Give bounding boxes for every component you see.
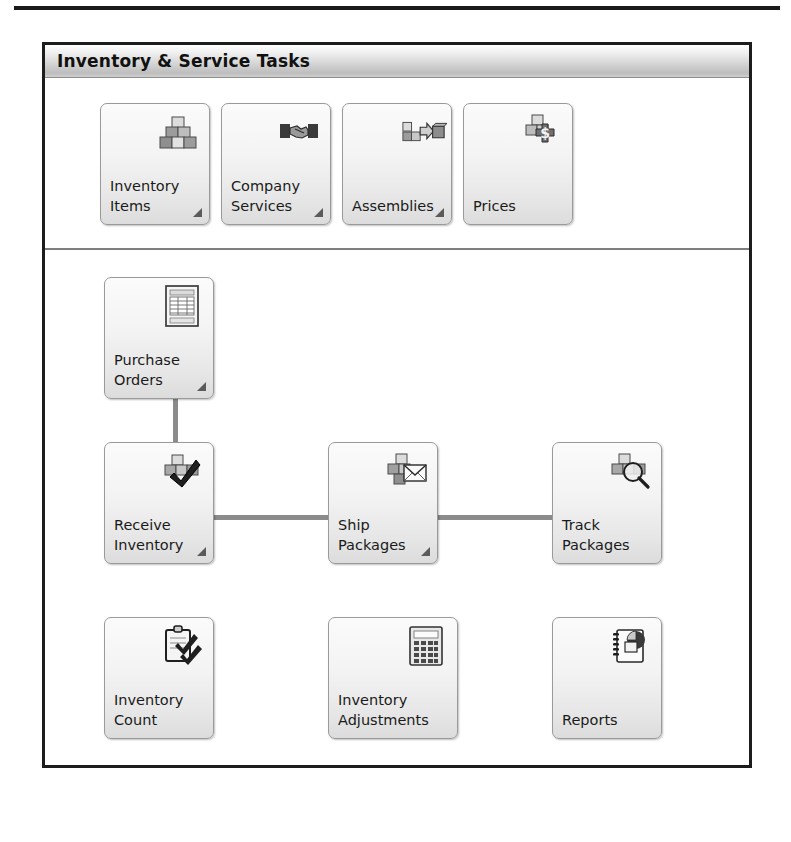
purchase-order-document-icon [159, 285, 205, 327]
page-top-rule [14, 6, 780, 10]
task-button-label: InventoryCount [114, 690, 207, 731]
task-button-label: Assemblies [352, 196, 445, 217]
dropdown-caret-icon[interactable] [197, 547, 206, 556]
task-button-label: Reports [562, 710, 655, 731]
task-button-label: ShipPackages [338, 515, 431, 556]
panel-title: Inventory & Service Tasks [57, 51, 310, 71]
handshake-icon [276, 111, 322, 153]
task-button-receive-inventory[interactable]: ReceiveInventory [104, 442, 214, 564]
task-button-reports[interactable]: Reports [552, 617, 662, 739]
boxes-magnifier-icon [607, 450, 653, 492]
task-button-label: ReceiveInventory [114, 515, 207, 556]
connector-ship-to-track [438, 515, 554, 520]
task-button-assemblies[interactable]: Assemblies [342, 103, 452, 225]
clipboard-check-icon [159, 625, 205, 667]
boxes-check-icon [159, 450, 205, 492]
panel-titlebar: Inventory & Service Tasks [45, 45, 749, 78]
connector-receive-to-ship [214, 515, 330, 520]
task-button-company-services[interactable]: CompanyServices [221, 103, 331, 225]
task-button-label: InventoryAdjustments [338, 690, 451, 731]
task-button-label: PurchaseOrders [114, 350, 207, 391]
task-button-inventory-count[interactable]: InventoryCount [104, 617, 214, 739]
calculator-icon [403, 625, 449, 667]
dropdown-caret-icon[interactable] [435, 208, 444, 217]
assemblies-arrow-icon [401, 111, 447, 153]
boxes-dollar-icon: $ [518, 111, 564, 153]
boxes-stack-icon [155, 111, 201, 153]
top-task-section: InventoryItems CompanyServices [45, 78, 749, 250]
task-button-inventory-items[interactable]: InventoryItems [100, 103, 210, 225]
task-button-ship-packages[interactable]: ShipPackages [328, 442, 438, 564]
task-button-prices[interactable]: $ Prices [463, 103, 573, 225]
inventory-service-tasks-panel: Inventory & Service Tasks InventoryItems [42, 42, 752, 768]
boxes-envelope-icon [383, 450, 429, 492]
task-button-inventory-adjustments[interactable]: InventoryAdjustments [328, 617, 458, 739]
task-button-label: InventoryItems [110, 176, 203, 217]
workflow-section: PurchaseOrders ReceiveInventory [45, 250, 749, 766]
task-button-purchase-orders[interactable]: PurchaseOrders [104, 277, 214, 399]
connector-po-to-receive [173, 399, 178, 442]
dropdown-caret-icon[interactable] [193, 208, 202, 217]
task-button-label: TrackPackages [562, 515, 655, 556]
task-button-label: Prices [473, 196, 566, 217]
dropdown-caret-icon[interactable] [197, 382, 206, 391]
task-button-track-packages[interactable]: TrackPackages [552, 442, 662, 564]
dropdown-caret-icon[interactable] [421, 547, 430, 556]
svg-text:$: $ [540, 125, 550, 141]
task-button-label: CompanyServices [231, 176, 324, 217]
report-piechart-icon [607, 625, 653, 667]
dropdown-caret-icon[interactable] [314, 208, 323, 217]
